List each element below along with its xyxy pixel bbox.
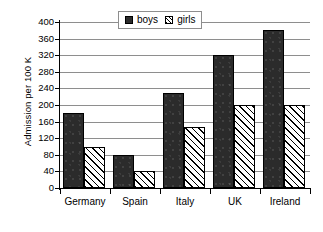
x-axis-category-label: Ireland — [260, 196, 310, 207]
y-axis-tick-label: 320 — [20, 50, 54, 59]
bar-italy-boys — [163, 93, 184, 188]
x-axis-tick-mark — [110, 188, 111, 194]
bar-germany-boys — [63, 113, 84, 188]
legend-label-boys: boys — [137, 14, 158, 25]
y-axis-tick-labels: 40036032028024020016012080400 — [16, 0, 54, 232]
bar-uk-boys — [213, 55, 234, 188]
y-axis-tick-label: 160 — [20, 117, 54, 126]
y-axis-tick-mark — [55, 55, 60, 56]
legend-label-girls: girls — [177, 14, 195, 25]
bar-group — [260, 22, 310, 188]
x-axis-category-label: Italy — [160, 196, 210, 207]
y-axis-tick-label: 0 — [20, 183, 54, 192]
bar-uk-girls — [234, 105, 255, 188]
bar-spain-girls — [134, 171, 155, 188]
y-axis-tick-mark — [55, 88, 60, 89]
x-axis-category-label: Germany — [60, 196, 110, 207]
x-axis-tick-mark — [260, 188, 261, 194]
x-axis-category-label: Spain — [110, 196, 160, 207]
bar-series-container — [60, 22, 310, 188]
x-axis-tick-mark — [160, 188, 161, 194]
legend-swatch-girls-icon — [165, 16, 173, 24]
bar-italy-girls — [184, 127, 205, 188]
legend-item-girls: girls — [165, 14, 195, 25]
y-axis-tick-label: 200 — [20, 100, 54, 109]
y-axis-tick-mark — [55, 155, 60, 156]
bar-group — [110, 22, 160, 188]
x-axis-category-label: UK — [210, 196, 260, 207]
bar-ireland-girls — [284, 105, 305, 188]
y-axis-tick-label: 40 — [20, 166, 54, 175]
x-axis-tick-mark — [60, 188, 61, 194]
legend-swatch-boys-icon — [125, 16, 133, 24]
y-axis-tick-label: 120 — [20, 133, 54, 142]
y-axis-tick-mark — [55, 138, 60, 139]
bar-chart: Admission per 100 K 40036032028024020016… — [0, 0, 323, 232]
x-axis-line — [59, 188, 310, 189]
y-axis-tick-label: 240 — [20, 83, 54, 92]
y-axis-tick-label: 80 — [20, 150, 54, 159]
chart-legend: boys girls — [118, 11, 202, 29]
y-axis-tick-mark — [55, 22, 60, 23]
bar-germany-girls — [84, 147, 105, 189]
y-axis-tick-mark — [55, 39, 60, 40]
y-axis-tick-label: 280 — [20, 67, 54, 76]
y-axis-tick-mark — [55, 122, 60, 123]
y-axis-tick-mark — [55, 171, 60, 172]
y-axis-tick-mark — [55, 72, 60, 73]
y-axis-tick-label: 360 — [20, 34, 54, 43]
bar-group — [210, 22, 260, 188]
legend-item-boys: boys — [125, 14, 158, 25]
bar-ireland-boys — [263, 30, 284, 188]
y-axis-tick-mark — [55, 105, 60, 106]
x-axis-tick-mark — [310, 188, 311, 194]
bar-group — [160, 22, 210, 188]
bar-spain-boys — [113, 155, 134, 188]
x-axis-tick-mark — [210, 188, 211, 194]
bar-group — [60, 22, 110, 188]
y-axis-tick-label: 400 — [20, 17, 54, 26]
